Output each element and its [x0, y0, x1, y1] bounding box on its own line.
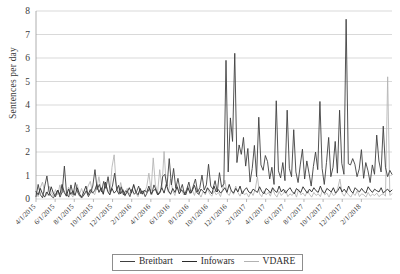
- legend-label-vdare: VDARE: [263, 257, 296, 267]
- legend-swatch-breitbart: [120, 261, 135, 262]
- chart-container: Sentences per day 0123456784/1/20156/1/2…: [0, 0, 400, 274]
- y-tick-label: 5: [25, 77, 30, 87]
- series-line-breitbart: [36, 19, 392, 198]
- legend-item-vdare[interactable]: VDARE: [244, 257, 296, 267]
- chart-legend: Breitbart Infowars VDARE: [112, 254, 303, 271]
- legend-item-infowars[interactable]: Infowars: [182, 257, 235, 267]
- y-tick-label: 0: [25, 194, 30, 204]
- y-tick-label: 3: [25, 124, 30, 134]
- y-tick-label: 2: [25, 147, 30, 157]
- legend-label-infowars: Infowars: [201, 257, 235, 267]
- y-tick-label: 4: [25, 100, 30, 110]
- legend-item-breitbart[interactable]: Breitbart: [120, 257, 173, 267]
- y-tick-label: 1: [25, 171, 30, 181]
- plot-area: 0123456784/1/20156/1/20158/1/201510/1/20…: [0, 0, 400, 274]
- x-tick-label: 2/1/2018: [339, 202, 363, 226]
- y-tick-label: 7: [25, 30, 30, 40]
- legend-label-breitbart: Breitbart: [139, 257, 173, 267]
- y-tick-label: 8: [25, 6, 30, 16]
- legend-swatch-infowars: [182, 261, 197, 262]
- chart-svg: 0123456784/1/20156/1/20158/1/201510/1/20…: [0, 0, 400, 274]
- legend-swatch-vdare: [244, 261, 259, 262]
- y-tick-label: 6: [25, 53, 30, 63]
